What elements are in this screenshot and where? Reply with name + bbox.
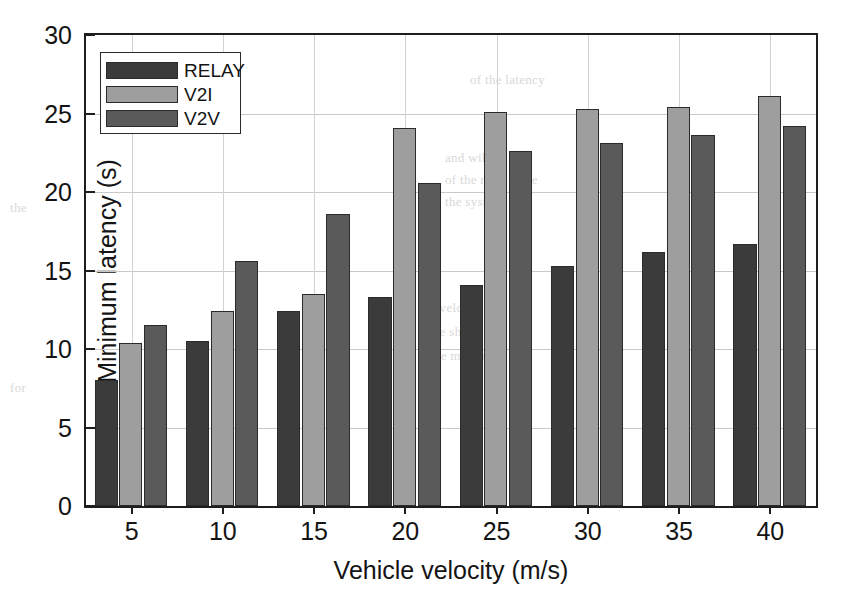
y-axis-title-wrapper: Minimum latency (s) (0, 33, 34, 508)
legend-swatch-v2i (106, 86, 178, 103)
y-tick-label: 10 (44, 337, 72, 362)
x-tick-label: 35 (665, 519, 693, 544)
bar-relay-15 (277, 311, 300, 506)
figure-container: of the latencyand will be theof the rela… (0, 0, 847, 590)
x-tick-label: 10 (209, 519, 237, 544)
x-tick-mark (404, 506, 406, 514)
x-tick-mark (496, 506, 498, 514)
x-tick-label: 40 (756, 519, 784, 544)
bar-v2i-25 (484, 112, 507, 506)
x-tick-mark (313, 506, 315, 514)
y-tick-label: 25 (44, 101, 72, 126)
x-tick-label: 30 (574, 519, 602, 544)
bar-v2i-40 (758, 96, 781, 506)
legend-item-v2v[interactable]: V2V (106, 106, 235, 130)
bar-v2v-25 (509, 151, 532, 506)
x-tick-mark (222, 506, 224, 514)
bar-v2v-20 (418, 183, 441, 506)
y-tick-label: 0 (58, 494, 72, 519)
bar-relay-10 (186, 341, 209, 506)
bar-v2v-10 (235, 261, 258, 506)
bar-v2i-35 (667, 107, 690, 506)
bar-v2i-5 (119, 343, 142, 506)
bar-v2v-35 (691, 135, 714, 506)
legend-label: V2V (184, 109, 220, 128)
legend-swatch-v2v (106, 110, 178, 127)
bar-relay-5 (95, 380, 118, 506)
bar-relay-40 (733, 244, 756, 506)
bar-relay-25 (460, 285, 483, 506)
bar-relay-30 (551, 266, 574, 506)
x-axis-title: Vehicle velocity (m/s) (84, 556, 818, 585)
y-tick-label: 15 (44, 258, 72, 283)
legend-item-v2i[interactable]: V2I (106, 82, 235, 106)
bar-relay-20 (368, 297, 391, 506)
x-tick-mark (678, 506, 680, 514)
x-tick-mark (769, 506, 771, 514)
bar-v2v-15 (326, 214, 349, 506)
x-tick-label: 15 (300, 519, 328, 544)
x-tick-label: 20 (391, 519, 419, 544)
bar-v2i-15 (302, 294, 325, 506)
bar-relay-35 (642, 252, 665, 506)
legend-label: RELAY (184, 61, 245, 80)
legend: RELAYV2IV2V (100, 52, 241, 134)
y-tick-label: 30 (44, 23, 72, 48)
bar-v2i-30 (576, 109, 599, 506)
bar-v2v-5 (144, 325, 167, 506)
y-tick-label: 20 (44, 180, 72, 205)
y-tick-label: 5 (58, 415, 72, 440)
bar-v2i-10 (211, 311, 234, 506)
legend-swatch-relay (106, 62, 178, 79)
legend-item-relay[interactable]: RELAY (106, 58, 235, 82)
bar-v2v-40 (783, 126, 806, 506)
bar-v2v-30 (600, 143, 623, 506)
legend-label: V2I (184, 85, 213, 104)
x-tick-mark (587, 506, 589, 514)
bar-v2i-20 (393, 128, 416, 506)
x-tick-label: 5 (125, 519, 139, 544)
x-tick-mark (131, 506, 133, 514)
x-tick-label: 25 (483, 519, 511, 544)
